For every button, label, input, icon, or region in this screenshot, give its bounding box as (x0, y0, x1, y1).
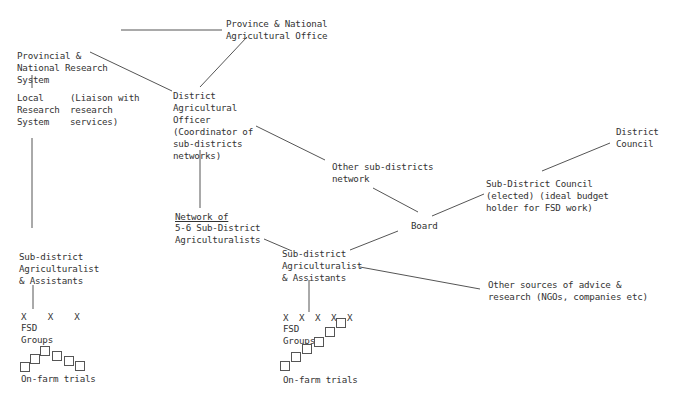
trial-plot-icon (75, 361, 85, 371)
network-of-sub-district-agriculturalists: 5-6 Sub-District Agriculturalists (175, 222, 260, 246)
trial-plot-icon (302, 344, 312, 354)
trial-plot-icon (291, 352, 301, 362)
center-sub-district-agriculturalist: Sub-district Agriculturalist & Assistant… (282, 248, 362, 284)
trial-plot-icon (64, 356, 74, 366)
trial-plot-icon (30, 354, 40, 364)
center-on-farm-trials: On-farm trials (283, 374, 358, 386)
trial-plot-icon (52, 351, 62, 361)
other-sub-districts-network: Other sub-districts network (332, 161, 433, 185)
left-sub-district-agriculturalist: Sub-district Agriculturalist & Assistant… (19, 251, 99, 287)
liaison-note: (Liaison with research services) (70, 92, 139, 128)
other-sources-of-advice: Other sources of advice & research (NGOs… (488, 279, 648, 303)
trial-plot-icon (20, 362, 30, 372)
left-on-farm-trials: On-farm trials (21, 373, 96, 385)
local-research-system: Local Research System (17, 92, 60, 128)
district-council: District Council (616, 126, 659, 150)
sub-district-council: Sub-District Council (elected) (ideal bu… (486, 178, 609, 214)
district-agricultural-officer: District Agricultural Officer (Coordinat… (173, 90, 253, 162)
trial-plot-icon (325, 327, 335, 337)
trial-plot-icon (40, 346, 50, 356)
provincial-national-research-system: Provincial & National Research System (17, 50, 108, 86)
board: Board (411, 220, 438, 232)
province-national-agricultural-office: Province & National Agricultural Office (226, 18, 327, 42)
left-fsd-groups-label: FSD Groups (21, 322, 53, 346)
trial-plot-icon (336, 318, 346, 328)
trial-plot-icon (280, 361, 290, 371)
trial-plot-icon (314, 337, 324, 347)
